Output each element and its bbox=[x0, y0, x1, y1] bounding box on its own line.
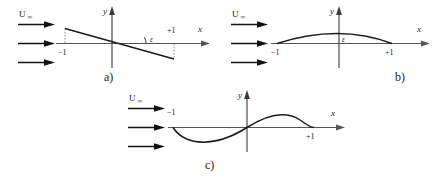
x-axis-arrowhead bbox=[201, 41, 210, 47]
panel-caption-a: a) bbox=[104, 70, 113, 84]
epsilon-label: ε bbox=[150, 35, 153, 44]
panel-b-drawing: U ∞ x y ε −1 +1 b) bbox=[218, 0, 440, 91]
y-axis-arrowhead bbox=[244, 90, 250, 99]
panel-caption-c: c) bbox=[205, 158, 214, 172]
circular-arc-profile bbox=[277, 34, 392, 44]
airfoil-profiles-figure: U ∞ x y ε −1 +1 bbox=[0, 0, 440, 182]
free-stream-label-b: U ∞ bbox=[232, 9, 246, 20]
tick-label-plus-one: +1 bbox=[167, 26, 176, 35]
y-axis-arrowhead bbox=[109, 6, 115, 15]
y-axis-label: y bbox=[237, 90, 242, 100]
y-axis-label: y bbox=[329, 6, 334, 16]
panel-a-drawing: U ∞ x y ε −1 +1 bbox=[0, 0, 220, 91]
tick-label-minus-one: −1 bbox=[167, 108, 176, 117]
panel-caption-b: b) bbox=[395, 70, 405, 84]
tick-label-plus-one: +1 bbox=[385, 48, 394, 57]
y-axis-label: y bbox=[102, 6, 107, 16]
stream-arrow bbox=[18, 40, 55, 47]
epsilon-label: ε bbox=[342, 35, 345, 44]
panel-b: U ∞ x y ε −1 +1 b) bbox=[218, 0, 440, 91]
stream-arrow bbox=[18, 59, 55, 66]
stream-arrows-b bbox=[231, 21, 268, 66]
stream-arrow bbox=[128, 124, 165, 131]
tick-label-plus-one: +1 bbox=[306, 132, 315, 141]
y-axis-c bbox=[244, 90, 250, 152]
x-axis-label: x bbox=[330, 108, 335, 118]
free-stream-label-sub: ∞ bbox=[138, 97, 143, 104]
stream-arrows-c bbox=[128, 105, 165, 150]
free-stream-label-main: U bbox=[129, 93, 136, 103]
x-axis-arrowhead bbox=[421, 41, 430, 47]
x-axis-label: x bbox=[416, 24, 421, 34]
stream-arrow bbox=[128, 105, 165, 112]
free-stream-label-sub: ∞ bbox=[241, 13, 246, 20]
free-stream-label-a: U ∞ bbox=[19, 9, 33, 20]
stream-arrow bbox=[18, 21, 55, 28]
free-stream-label-sub: ∞ bbox=[28, 13, 33, 20]
x-axis-label: x bbox=[197, 24, 202, 34]
tick-label-minus-one: −1 bbox=[271, 48, 280, 57]
s-shaped-profile bbox=[173, 115, 314, 142]
y-axis-a bbox=[109, 6, 115, 68]
x-axis-c bbox=[168, 125, 345, 131]
x-axis-arrowhead bbox=[336, 125, 345, 131]
panel-c-drawing: U ∞ x y −1 +1 c) bbox=[110, 90, 360, 182]
free-stream-label-main: U bbox=[19, 9, 26, 19]
stream-arrow bbox=[231, 59, 268, 66]
epsilon-angle-arc bbox=[144, 37, 146, 43]
free-stream-label-main: U bbox=[232, 9, 239, 19]
stream-arrows-a bbox=[18, 21, 55, 66]
tick-label-minus-one: −1 bbox=[58, 48, 67, 57]
panel-a: U ∞ x y ε −1 +1 bbox=[0, 0, 220, 91]
stream-arrow bbox=[231, 40, 268, 47]
free-stream-label-c: U ∞ bbox=[129, 93, 143, 104]
panel-c: U ∞ x y −1 +1 c) bbox=[110, 90, 360, 182]
stream-arrow bbox=[231, 21, 268, 28]
x-axis-a bbox=[56, 41, 210, 47]
y-axis-arrowhead bbox=[336, 6, 342, 15]
x-axis-b bbox=[271, 41, 430, 47]
stream-arrow bbox=[128, 143, 165, 150]
